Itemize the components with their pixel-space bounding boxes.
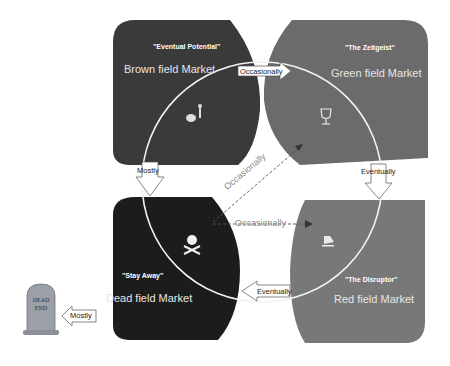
dead-market-label: Dead field Market xyxy=(106,292,192,304)
brown-market-label: Brown field Market xyxy=(124,63,215,75)
arrow-label-occasionally-top: Occasionally xyxy=(240,67,283,76)
dashed-label-to-red: Occasionally xyxy=(235,218,286,228)
arrow-label-mostly-center: Mostly xyxy=(137,166,159,175)
red-market-label: Red field Market xyxy=(334,293,414,305)
arrow-label-eventually-right: Eventually xyxy=(361,167,396,176)
arrow-label-mostly-deadend: Mostly xyxy=(70,311,92,320)
brown-field-quadrant xyxy=(113,20,260,165)
dead-field-quadrant xyxy=(113,197,240,340)
red-tagline: "The Disruptor" xyxy=(345,276,398,283)
red-field-quadrant xyxy=(290,200,425,343)
arrow-label-eventually-bottom: Eventually xyxy=(257,287,292,296)
brown-tagline: "Eventual Potential" xyxy=(153,43,220,50)
market-diagram: "Eventual Potential" Brown field Market … xyxy=(0,0,450,366)
green-market-label: Green field Market xyxy=(331,67,421,79)
green-tagline: "The Zeitgeist" xyxy=(345,44,395,51)
green-field-quadrant xyxy=(264,20,428,165)
tombstone-line1: DEAD xyxy=(30,297,52,303)
tombstone-line2: END xyxy=(30,305,52,311)
dead-tagline: "Stay Away" xyxy=(122,272,163,279)
